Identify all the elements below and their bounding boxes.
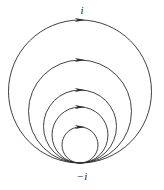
circles-group xyxy=(9,20,152,163)
circle-5 xyxy=(62,127,98,163)
circle-outer xyxy=(9,20,152,163)
arrowheads-group xyxy=(75,18,85,129)
circle-4 xyxy=(52,107,108,163)
circle-2 xyxy=(29,60,132,163)
label-point-minus-i: −i xyxy=(0,171,164,182)
label-point-i: i xyxy=(0,5,164,16)
nested-circles-diagram xyxy=(0,0,164,190)
figure-canvas: i −i xyxy=(0,0,164,190)
